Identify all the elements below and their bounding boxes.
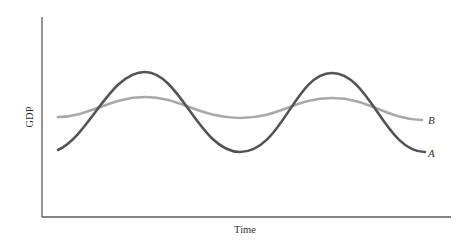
series-a-line: [58, 72, 425, 152]
chart: GDP Time B A: [0, 0, 470, 249]
y-axis-label: GDP: [24, 106, 35, 127]
series-b-label: B: [428, 114, 435, 126]
series-a-label: A: [427, 147, 435, 159]
x-axis-label: Time: [234, 224, 256, 235]
series-b-line: [58, 97, 422, 120]
